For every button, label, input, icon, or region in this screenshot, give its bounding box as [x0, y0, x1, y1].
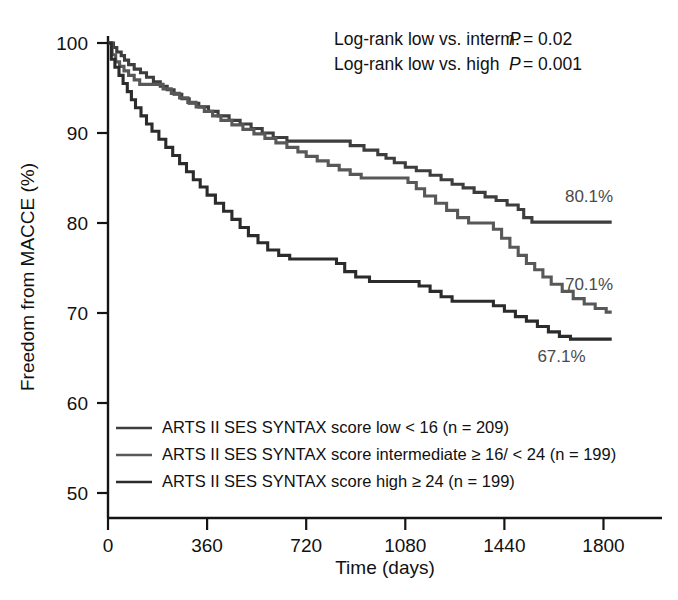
logrank-annotation-block: Log-rank low vs. interm. P = 0.02 Log-ra…: [334, 29, 582, 74]
y-axis-title: Freedom from MACCE (%): [17, 163, 38, 391]
y-tick-label-50: 50: [67, 483, 88, 504]
logrank-annotation-row-0-label: Log-rank low vs. interm.: [334, 29, 520, 49]
x-tick-label-1080: 1080: [384, 535, 426, 556]
chart-legend: ARTS II SES SYNTAX score low < 16 (n = 2…: [116, 418, 616, 490]
x-tick-label-720: 720: [290, 535, 322, 556]
x-tick-label-1800: 1800: [582, 535, 624, 556]
logrank-annotation-row-0-stat: P: [509, 29, 521, 49]
legend-item-intermediate-label: ARTS II SES SYNTAX score intermediate ≥ …: [162, 445, 616, 463]
endpoint-label-low: 80.1%: [565, 187, 613, 206]
y-axis-ticks: [97, 43, 108, 493]
legend-item-high-label: ARTS II SES SYNTAX score high ≥ 24 (n = …: [162, 472, 515, 490]
logrank-annotation-row-1-value: = 0.001: [523, 54, 582, 74]
x-tick-label-0: 0: [103, 535, 114, 556]
kaplan-meier-figure: 5060708090100 0360720108014401800 Freedo…: [0, 0, 678, 600]
logrank-annotation-row-1-stat: P: [509, 54, 521, 74]
y-tick-label-70: 70: [67, 303, 88, 324]
x-axis-title: Time (days): [335, 557, 435, 578]
x-axis-tick-labels: 0360720108014401800: [103, 535, 625, 556]
endpoint-label-intermediate: 70.1%: [565, 275, 613, 294]
x-tick-label-360: 360: [191, 535, 223, 556]
y-tick-label-100: 100: [56, 33, 88, 54]
survival-curves: [108, 43, 612, 339]
x-tick-label-1440: 1440: [483, 535, 525, 556]
legend-item-low-label: ARTS II SES SYNTAX score low < 16 (n = 2…: [162, 418, 509, 436]
logrank-annotation-row-0-value: = 0.02: [523, 29, 572, 49]
y-axis-tick-labels: 5060708090100: [56, 33, 88, 504]
endpoint-label-high: 67.1%: [537, 347, 585, 366]
km-survival-chart: 5060708090100 0360720108014401800 Freedo…: [0, 0, 678, 600]
survival-curve-intermediate: [108, 43, 612, 312]
y-tick-label-80: 80: [67, 213, 88, 234]
y-tick-label-90: 90: [67, 123, 88, 144]
x-axis-ticks: [108, 518, 603, 530]
y-tick-label-60: 60: [67, 393, 88, 414]
logrank-annotation-row-1-label: Log-rank low vs. high: [334, 54, 499, 74]
survival-curve-high: [108, 43, 612, 339]
